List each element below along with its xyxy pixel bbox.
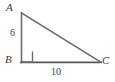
side-label-bc: 10	[51, 67, 61, 77]
geometry-diagram: A B C 6 10	[0, 0, 115, 82]
segment-ac	[22, 13, 102, 62]
vertex-label-b: B	[5, 54, 12, 65]
side-label-ab: 6	[10, 28, 15, 38]
vertex-label-c: C	[102, 55, 109, 66]
right-angle-mark-icon	[22, 52, 33, 63]
vertex-label-a: A	[6, 2, 13, 13]
